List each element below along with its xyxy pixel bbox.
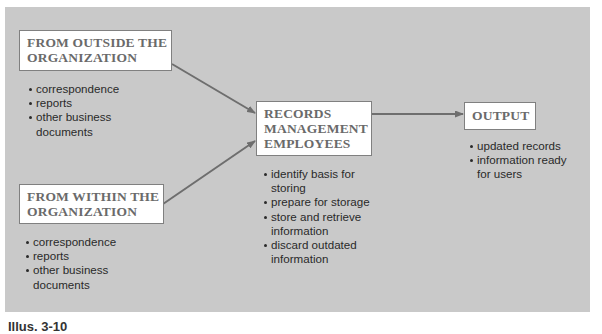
list-item: correspondence [25, 235, 116, 249]
list-records-management: identify basis forstoring prepare for st… [263, 167, 370, 266]
box-records-management: RECORDS MANAGEMENT EMPLOYEES [256, 101, 372, 156]
box-title-line: EMPLOYEES [264, 136, 371, 151]
list-from-within: correspondence reports other businessdoc… [25, 235, 116, 292]
list-item: reports [28, 96, 119, 110]
box-title-line: FROM WITHIN THE [27, 189, 163, 204]
box-title-line: MANAGEMENT [264, 121, 371, 136]
box-title-line: RECORDS [264, 106, 371, 121]
list-item: store and retrieveinformation [263, 210, 370, 238]
box-title-line: OUTPUT [472, 108, 535, 123]
box-from-within: FROM WITHIN THE ORGANIZATION [19, 184, 164, 224]
arrow-within-to-records [163, 141, 255, 204]
list-output: updated records information readyfor use… [469, 139, 567, 182]
list-item: identify basis forstoring [263, 167, 370, 195]
list-item: other businessdocuments [28, 110, 119, 138]
list-item: other businessdocuments [25, 263, 116, 291]
box-title-line: ORGANIZATION [27, 50, 171, 65]
figure-caption: Illus. 3-10 [8, 319, 67, 334]
list-item: correspondence [28, 82, 119, 96]
list-item: updated records [469, 139, 567, 153]
list-item: discard outdatedinformation [263, 238, 370, 266]
box-title-line: ORGANIZATION [27, 204, 163, 219]
box-title-line: FROM OUTSIDE THE [27, 35, 171, 50]
arrow-outside-to-records [172, 64, 255, 113]
list-item: information readyfor users [469, 153, 567, 181]
list-from-outside: correspondence reports other businessdoc… [28, 82, 119, 139]
box-output: OUTPUT [464, 102, 536, 130]
list-item: reports [25, 249, 116, 263]
list-item: prepare for storage [263, 195, 370, 209]
box-from-outside: FROM OUTSIDE THE ORGANIZATION [19, 30, 172, 71]
